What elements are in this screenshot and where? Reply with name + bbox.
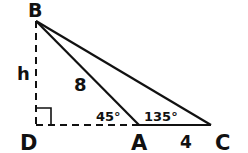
vertex-label-a: A — [131, 131, 148, 153]
angle-135-label: 135° — [144, 109, 178, 124]
vertex-label-d: D — [20, 131, 37, 153]
vertex-label-b: B — [28, 0, 42, 21]
angle-45-label: 45° — [96, 109, 121, 124]
side-ba-label: 8 — [74, 74, 87, 95]
side-ac-label: 4 — [180, 132, 192, 152]
height-label: h — [17, 63, 30, 84]
vertex-label-c: C — [215, 131, 230, 153]
right-angle-marker — [36, 108, 51, 125]
triangle-diagram: B h 8 45° 135° D A 4 C — [0, 0, 248, 153]
